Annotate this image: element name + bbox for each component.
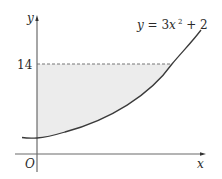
origin-label: O	[25, 157, 35, 171]
equation-var: x	[169, 18, 176, 32]
y-axis-label: y	[26, 11, 34, 25]
y-axis-arrow-icon	[35, 15, 38, 21]
equation-rest: + 2	[182, 18, 207, 32]
y-tick-label-14: 14	[17, 58, 33, 72]
diagram-canvas: y x O 14 y = 3x2 + 2	[0, 0, 222, 179]
equation-label: y = 3x2 + 2	[136, 18, 208, 32]
x-axis-arrow-icon	[200, 152, 206, 155]
x-axis-label: x	[197, 157, 204, 171]
shaded-region	[37, 64, 172, 138]
equation-eq: = 3	[144, 18, 169, 32]
